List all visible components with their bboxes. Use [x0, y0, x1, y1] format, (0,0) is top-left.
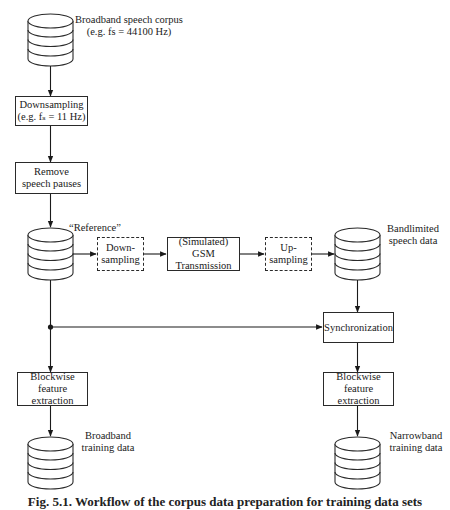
box-line: Blockwise feature — [18, 371, 87, 395]
gsm-transmission-box: (Simulated) GSM Transmission — [167, 237, 240, 271]
box-line: Down- — [106, 242, 135, 254]
label-bandlimited: Bandlimited speech data — [380, 223, 446, 247]
label-broadband-corpus: Broadband speech corpus (e.g. fs = 44100… — [74, 14, 184, 38]
down-sampling-box: Down- sampling — [97, 237, 144, 271]
box-line: sampling — [101, 254, 140, 266]
database-icon-narrowband-training — [335, 437, 380, 489]
synchronization-box: Synchronization — [323, 312, 394, 343]
database-icon-broadband-corpus — [28, 14, 73, 66]
database-icon-bandlimited — [335, 228, 380, 280]
label-line: Broadband speech corpus — [74, 14, 184, 26]
box-line: Remove — [34, 166, 69, 178]
up-sampling-box: Up- sampling — [265, 237, 312, 271]
label-line: training data — [78, 442, 138, 454]
label-line: training data — [383, 442, 449, 454]
box-line: Up- — [280, 242, 296, 254]
box-line: sampling — [269, 254, 308, 266]
box-line: (Simulated) GSM — [168, 236, 239, 260]
box-line: Synchronization — [324, 322, 393, 334]
feature-extraction-right-box: Blockwise feature extraction — [323, 372, 394, 406]
box-line: (e.g. fₛ = 11 Hz) — [18, 111, 86, 123]
box-line: extraction — [32, 395, 74, 407]
figure-caption: Fig. 5.1. Workflow of the corpus data pr… — [0, 494, 450, 510]
box-line: extraction — [338, 395, 380, 407]
database-icon-broadband-training — [28, 437, 73, 489]
database-icon-reference — [28, 228, 73, 280]
label-line: Narrowband — [383, 430, 449, 442]
feature-extraction-left-box: Blockwise feature extraction — [17, 372, 88, 406]
label-line: Bandlimited — [380, 223, 446, 235]
box-line: Transmission — [175, 260, 231, 272]
remove-speech-pauses-box: Remove speech pauses — [15, 162, 88, 194]
junction-dot — [48, 324, 53, 329]
label-line: speech data — [380, 235, 446, 247]
box-line: Downsampling — [19, 99, 83, 111]
downsampling-box: Downsampling (e.g. fₛ = 11 Hz) — [15, 96, 88, 126]
label-line: (e.g. fs = 44100 Hz) — [74, 26, 184, 38]
label-reference: “Reference” — [69, 222, 121, 234]
label-line: Broadband — [78, 430, 138, 442]
box-line: speech pauses — [22, 178, 81, 190]
label-broadband-training: Broadband training data — [78, 430, 138, 454]
label-narrowband-training: Narrowband training data — [383, 430, 449, 454]
box-line: Blockwise feature — [324, 371, 393, 395]
